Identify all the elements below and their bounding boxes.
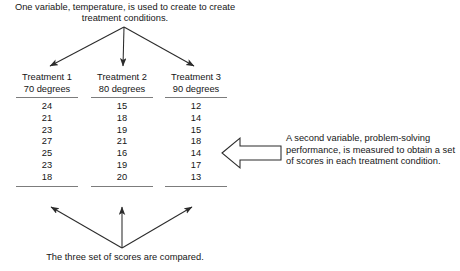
right-annotation-text: A second variable, problem-solving perfo…	[286, 133, 456, 168]
column-1-title: Treatment 1	[10, 72, 84, 84]
diagram-figure: One variable, temperature, is used to cr…	[0, 0, 460, 271]
column-2-top-rule	[91, 97, 153, 98]
data-value: 17	[159, 160, 233, 172]
column-3-values: 12 14 15 18 14 17 13	[159, 101, 233, 183]
column-2-values: 15 18 19 21 16 19 20	[85, 101, 159, 183]
data-value: 21	[10, 113, 84, 125]
data-value: 25	[10, 148, 84, 160]
data-value: 23	[10, 125, 84, 137]
data-value: 18	[10, 172, 84, 184]
bottom-fan-arrows	[51, 207, 192, 248]
column-2-bottom-rule	[91, 186, 153, 187]
data-value: 15	[85, 101, 159, 113]
data-value: 12	[159, 101, 233, 113]
top-caption: One variable, temperature, is used to cr…	[0, 2, 250, 25]
column-3-title: Treatment 3	[159, 72, 233, 84]
data-value: 21	[85, 136, 159, 148]
data-value: 14	[159, 148, 233, 160]
column-3-subtitle: 90 degrees	[159, 84, 233, 96]
top-fan-arrows	[50, 27, 194, 66]
data-value: 24	[10, 101, 84, 113]
data-value: 13	[159, 172, 233, 184]
data-value: 18	[159, 136, 233, 148]
data-value: 15	[159, 125, 233, 137]
data-value: 18	[85, 113, 159, 125]
treatment-column-3: Treatment 3 90 degrees 12 14 15 18 14 17…	[159, 72, 233, 187]
column-1-values: 24 21 23 27 25 23 18	[10, 101, 84, 183]
column-1-bottom-rule	[16, 186, 78, 187]
bottom-caption: The three set of scores are compared.	[0, 252, 250, 263]
data-value: 27	[10, 136, 84, 148]
data-value: 20	[85, 172, 159, 184]
column-2-title: Treatment 2	[85, 72, 159, 84]
treatment-column-2: Treatment 2 80 degrees 15 18 19 21 16 19…	[85, 72, 159, 187]
data-value: 14	[159, 113, 233, 125]
column-3-top-rule	[165, 97, 227, 98]
column-3-bottom-rule	[165, 186, 227, 187]
data-value: 16	[85, 148, 159, 160]
data-value: 19	[85, 125, 159, 137]
treatment-column-1: Treatment 1 70 degrees 24 21 23 27 25 23…	[10, 72, 84, 187]
data-value: 19	[85, 160, 159, 172]
column-2-subtitle: 80 degrees	[85, 84, 159, 96]
column-1-top-rule	[16, 97, 78, 98]
column-1-subtitle: 70 degrees	[10, 84, 84, 96]
data-value: 23	[10, 160, 84, 172]
